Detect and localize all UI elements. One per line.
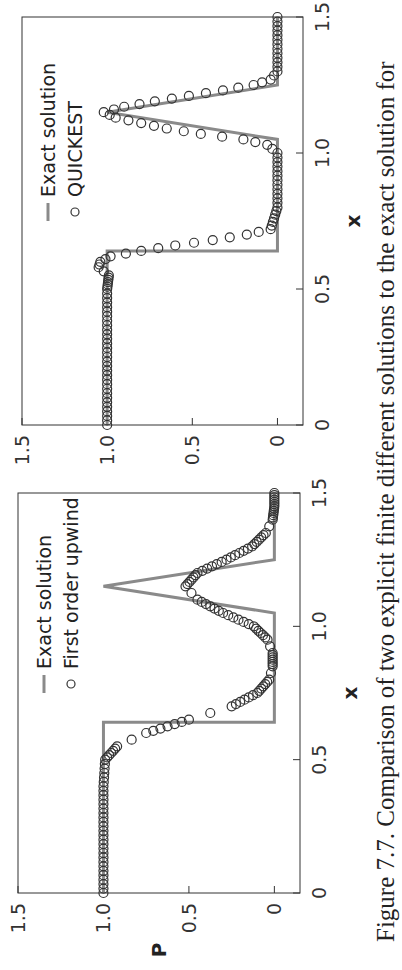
x-tick-label: 0 (311, 419, 333, 431)
data-marker (254, 227, 263, 236)
x-tick-label: 1.0 (311, 138, 333, 168)
data-marker (218, 132, 227, 141)
data-marker (224, 611, 233, 620)
rotated-page: 00.51.01.500.51.01.5xPExact solutionFirs… (0, 0, 402, 970)
data-marker (244, 620, 253, 629)
data-marker (124, 116, 133, 125)
data-marker (127, 735, 136, 744)
legend-label-method: QUICKEST (64, 101, 86, 197)
legend-label-exact: Exact solution (37, 63, 59, 197)
data-marker (196, 129, 205, 138)
data-marker (171, 241, 180, 250)
chart-panel-right: 00.51.01.500.51.01.5xExact solutionQUICK… (11, 2, 365, 465)
data-marker (137, 119, 146, 128)
data-marker (190, 238, 199, 247)
x-axis-label: x (341, 214, 365, 227)
data-marker (179, 127, 188, 136)
data-marker (258, 78, 267, 87)
figure-7-7: 00.51.01.500.51.01.5xPExact solutionFirs… (0, 0, 402, 970)
data-marker (208, 236, 217, 245)
data-marker (239, 135, 248, 144)
x-tick-label: 0.5 (311, 274, 333, 304)
y-tick-label: 0 (263, 903, 285, 915)
x-tick-label: 1.5 (311, 2, 333, 32)
data-marker (149, 121, 158, 130)
legend-label-method: First order upwind (60, 497, 82, 669)
figure-caption: Figure 7.7. Comparison of two explicit f… (372, 2, 400, 942)
legend: Exact solutionFirst order upwind (33, 497, 82, 693)
legend-marker-swatch (71, 208, 79, 216)
data-marker (251, 138, 260, 147)
data-marker (234, 615, 243, 624)
y-tick-label: 1.0 (92, 903, 114, 933)
x-tick-label: 0 (308, 887, 330, 899)
y-tick-label: 0.5 (178, 903, 200, 933)
data-marker (229, 613, 238, 622)
data-marker (206, 709, 215, 718)
legend-label-exact: Exact solution (33, 535, 55, 669)
data-marker (242, 230, 251, 239)
y-tick-label: 0 (266, 435, 288, 447)
x-axis-label: x (338, 686, 362, 699)
exact-solution-line (107, 17, 277, 425)
chart-panel-left: 00.51.01.500.51.01.5xPExact solutionFirs… (7, 478, 362, 957)
y-tick-label: 1.5 (7, 903, 29, 933)
legend-marker-swatch (67, 680, 75, 688)
y-tick-label: 0.5 (181, 435, 203, 465)
legend: Exact solutionQUICKEST (37, 63, 86, 221)
y-tick-label: 1.0 (96, 435, 118, 465)
x-tick-label: 1.0 (308, 611, 330, 641)
y-tick-label: 1.5 (11, 435, 33, 465)
data-marker (225, 233, 234, 242)
data-marker (162, 124, 171, 133)
x-tick-label: 1.5 (308, 478, 330, 508)
x-tick-label: 0.5 (308, 745, 330, 775)
y-axis-label: P (147, 943, 171, 958)
data-marker (239, 617, 248, 626)
